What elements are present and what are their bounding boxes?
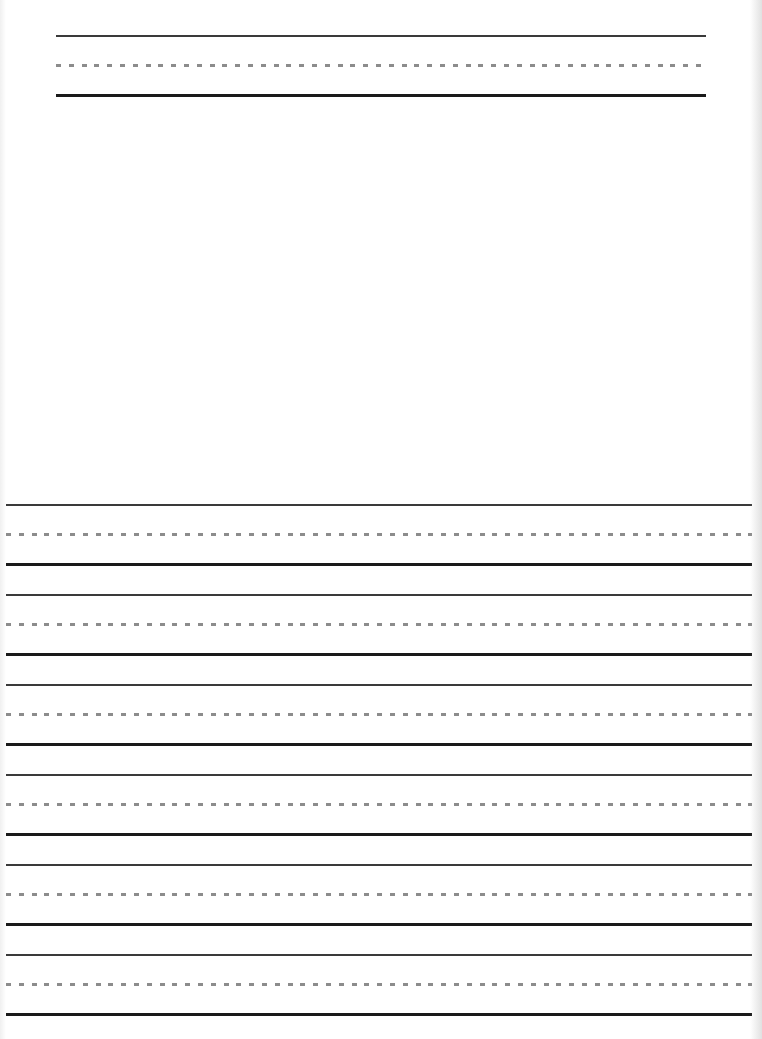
dashed-midline [6, 533, 752, 536]
writing-line-6[interactable] [6, 954, 752, 1016]
baseline [6, 653, 752, 656]
baseline [56, 94, 706, 97]
dashed-midline [6, 713, 752, 716]
baseline [6, 1013, 752, 1016]
writing-line-1[interactable] [6, 504, 752, 566]
headline [56, 35, 706, 37]
baseline [6, 563, 752, 566]
dashed-midline [6, 983, 752, 986]
dashed-midline [6, 893, 752, 896]
writing-line-3[interactable] [6, 684, 752, 746]
writing-line-5[interactable] [6, 864, 752, 926]
drawing-area[interactable] [0, 110, 762, 495]
writing-line-2[interactable] [6, 594, 752, 656]
headline [6, 954, 752, 956]
dashed-midline [6, 623, 752, 626]
baseline [6, 923, 752, 926]
headline [6, 864, 752, 866]
headline [6, 684, 752, 686]
dashed-midline [6, 803, 752, 806]
title-writing-line[interactable] [56, 35, 706, 97]
paper-right-shadow [750, 0, 762, 1039]
writing-line-4[interactable] [6, 774, 752, 836]
headline [6, 594, 752, 596]
headline [6, 504, 752, 506]
baseline [6, 833, 752, 836]
dashed-midline [56, 64, 706, 67]
baseline [6, 743, 752, 746]
headline [6, 774, 752, 776]
